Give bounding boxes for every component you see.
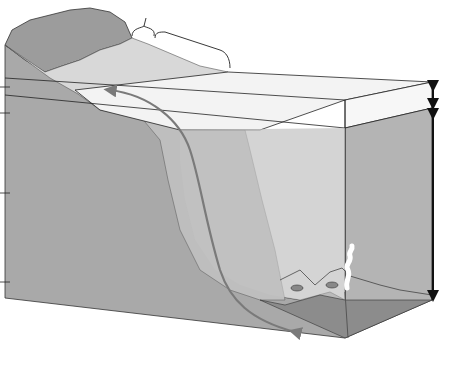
seamount-2 [326,282,338,288]
ocean-block-diagram [0,0,476,374]
seamount-1 [291,285,303,291]
oceanic-zones-figure [0,0,476,374]
intertidal-brace [132,26,154,36]
